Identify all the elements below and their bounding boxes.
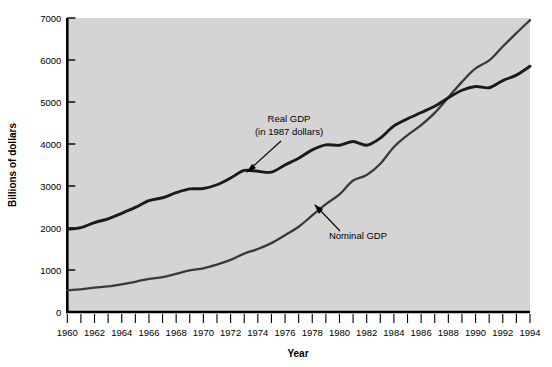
x-tick-label-1986: 1986 [411,327,432,338]
x-tick-label-1984: 1984 [383,327,404,338]
y-tick-label-7000: 7000 [40,13,61,24]
x-tick-label-1988: 1988 [438,327,459,338]
x-tick-label-1968: 1968 [166,327,187,338]
y-tick-label-2000: 2000 [40,223,61,234]
annotation-real-gdp-line1: Real GDP [268,113,311,124]
x-axis-ticks [67,314,530,323]
x-tick-label-1990: 1990 [465,327,486,338]
x-tick-label-1976: 1976 [274,327,295,338]
y-axis-title: Billions of dollars [7,123,18,207]
y-tick-label-1000: 1000 [40,265,61,276]
annotation-real-gdp-line2: (in 1987 dollars) [255,126,323,137]
x-axis-tick-labels: 1960196219641966196819701972197419761978… [57,327,541,338]
y-tick-label-0: 0 [56,307,61,318]
x-tick-label-1978: 1978 [302,327,323,338]
x-tick-label-1974: 1974 [247,327,268,338]
x-tick-label-1964: 1964 [111,327,132,338]
plot-area-background [67,18,530,312]
x-tick-label-1992: 1992 [492,327,513,338]
y-tick-label-4000: 4000 [40,139,61,150]
x-tick-label-1980: 1980 [329,327,350,338]
x-axis-title: Year [287,348,308,359]
x-tick-label-1966: 1966 [138,327,159,338]
chart-canvas: 01000200030004000500060007000 1960196219… [0,0,552,367]
y-axis-tick-labels: 01000200030004000500060007000 [40,13,61,318]
x-tick-label-1960: 1960 [57,327,78,338]
x-tick-label-1982: 1982 [356,327,377,338]
gdp-chart-figure: 01000200030004000500060007000 1960196219… [0,0,552,367]
y-tick-label-6000: 6000 [40,55,61,66]
y-tick-label-3000: 3000 [40,181,61,192]
x-tick-label-1972: 1972 [220,327,241,338]
x-tick-label-1962: 1962 [84,327,105,338]
x-tick-label-1994: 1994 [519,327,540,338]
y-tick-label-5000: 5000 [40,97,61,108]
x-tick-label-1970: 1970 [193,327,214,338]
annotation-nominal-gdp-label: Nominal GDP [329,230,387,241]
